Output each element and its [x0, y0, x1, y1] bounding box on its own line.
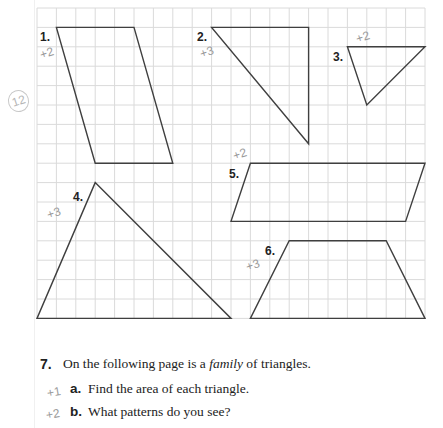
- question-text-end: of triangles.: [243, 356, 311, 371]
- question-text-start: On the following page is a: [63, 356, 209, 371]
- grid-svg: [0, 0, 443, 330]
- question-text: On the following page is a family of tri…: [63, 356, 311, 372]
- part-b-text: What patterns do you see?: [88, 404, 230, 420]
- shape-label-4: 4.: [73, 190, 83, 204]
- shape-label-2: 2.: [197, 30, 207, 44]
- shape-label-5: 5.: [229, 167, 239, 181]
- part-b-letter: b.: [70, 404, 82, 419]
- question-number: 7.: [40, 356, 52, 372]
- grid-figure: 1. +2 2. +3 3. +2 4. +3 5. +2 6. +3 12: [0, 0, 443, 330]
- handwritten-note-b: +2: [45, 406, 61, 422]
- part-a-text: Find the area of each triangle.: [88, 381, 249, 397]
- question-text-italic: family: [209, 356, 243, 371]
- shape-label-3: 3.: [333, 50, 343, 64]
- handwritten-note-a: +1: [46, 384, 62, 400]
- shape-label-6: 6.: [265, 244, 275, 258]
- shape-label-1: 1.: [40, 30, 50, 44]
- part-a-letter: a.: [70, 381, 81, 396]
